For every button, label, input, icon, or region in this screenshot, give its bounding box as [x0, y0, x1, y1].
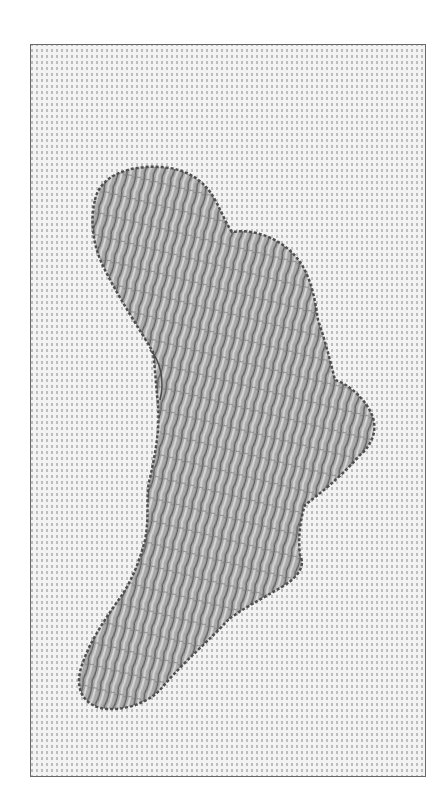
embroidery-illustration — [0, 0, 446, 803]
